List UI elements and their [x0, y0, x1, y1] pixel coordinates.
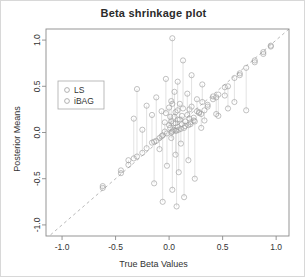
legend-label-ls: LS [74, 85, 85, 95]
x-axis-group: -1.0-0.50.00.51.0 [55, 236, 283, 252]
shrinkage-connector-group [103, 38, 271, 206]
y-axis-tick-label: -0.5 [32, 171, 42, 186]
x-axis-tick-label: 0.0 [163, 242, 175, 252]
y-axis-tick-label: 0.5 [32, 80, 42, 92]
y-axis-tick-label: -1.0 [32, 217, 42, 232]
chart-window: Beta shrinkage plot Posterior Means True… [0, 0, 305, 277]
x-axis-tick-label: 0.5 [217, 242, 229, 252]
x-axis-tick-label: -1.0 [55, 242, 70, 252]
x-axis-tick-label: -0.5 [108, 242, 123, 252]
scatter-plot-svg: -1.0-0.50.00.51.0-1.0-0.50.00.51.0LSiBAG [1, 1, 305, 277]
legend: LSiBAG [58, 81, 104, 109]
y-axis-group: -1.0-0.50.00.51.0 [32, 34, 46, 232]
plot-canvas: -1.0-0.50.00.51.0-1.0-0.50.00.51.0LSiBAG [1, 1, 305, 277]
y-axis-tick-label: 0.0 [32, 126, 42, 138]
data-point-group [100, 36, 273, 209]
x-axis-tick-label: 1.0 [270, 242, 282, 252]
legend-label-ibag: iBAG [74, 96, 94, 106]
y-axis-tick-label: 1.0 [32, 34, 42, 46]
